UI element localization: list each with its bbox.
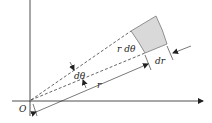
area-element-sector — [131, 16, 167, 53]
dtheta-arrow-bottom — [83, 80, 86, 88]
r-label: r — [97, 80, 102, 90]
r-extension-end — [145, 55, 151, 70]
polar-area-element-diagram: O r dθ dr dθ r — [0, 0, 212, 123]
arc-length-label: r dθ — [117, 44, 136, 54]
r-extension-origin — [33, 104, 37, 116]
dtheta-label: dθ — [74, 71, 86, 81]
dr-extension — [167, 46, 173, 60]
r-dimension-line — [36, 64, 148, 112]
origin-label: O — [19, 104, 27, 114]
upper-ray — [31, 31, 131, 100]
dtheta-arrow-top — [70, 62, 74, 70]
dr-arrow — [173, 46, 191, 53]
dr-label: dr — [155, 56, 166, 66]
